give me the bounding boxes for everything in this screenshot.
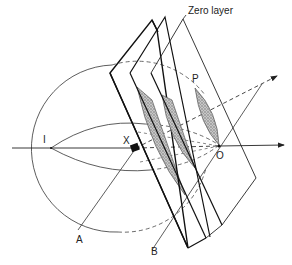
ewald-sphere-diagram: Zero layer P I X O A B [0, 0, 292, 265]
zero-layer-label: Zero layer [188, 6, 233, 16]
diagram-graphics [0, 0, 292, 265]
line-a-label: A [76, 235, 83, 245]
point-o-label: O [216, 151, 224, 161]
point-i-label: I [43, 135, 46, 145]
point-x-label: X [123, 136, 130, 146]
point-p-label: P [192, 74, 199, 84]
line-a [78, 148, 136, 230]
origin-point-o [218, 145, 221, 148]
crystal-marker [130, 143, 140, 152]
line-b-label: B [151, 247, 158, 257]
point-i-dot [50, 147, 52, 149]
